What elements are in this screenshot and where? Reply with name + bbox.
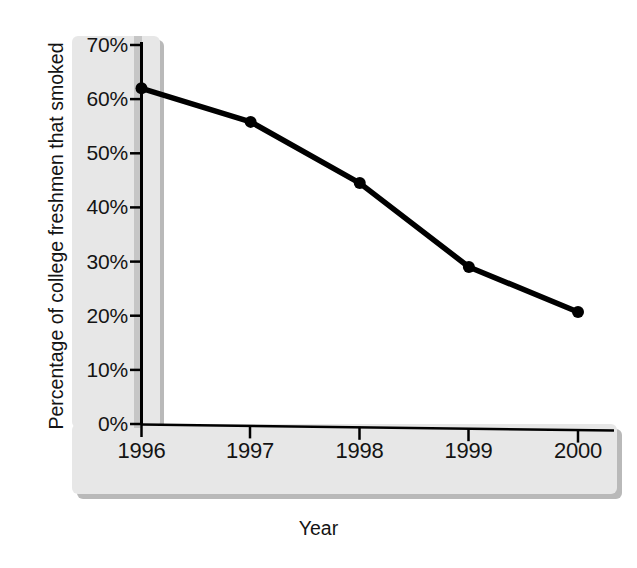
data-point-1999	[463, 261, 475, 273]
data-series-line	[142, 88, 579, 312]
x-tick-label-1996: 1996	[87, 440, 197, 462]
x-tick-label-1999: 1999	[414, 440, 524, 462]
x-tick-label-1997: 1997	[195, 440, 305, 462]
caption-remnant	[28, 560, 248, 568]
plot-area	[0, 0, 637, 568]
chart-figure: 70% 60% 50% 40% 30% 20% 10% 0% 1996 1997…	[0, 0, 637, 568]
x-axis-line	[142, 425, 615, 431]
data-point-1997	[245, 116, 257, 128]
y-axis-title: Percentage of college freshmen that smok…	[46, 26, 66, 446]
x-axis-title: Year	[0, 518, 637, 538]
data-point-1998	[354, 177, 366, 189]
x-tick-label-2000: 2000	[523, 440, 633, 462]
data-point-2000	[572, 306, 584, 318]
data-point-1996	[136, 82, 148, 94]
x-tick-label-1998: 1998	[305, 440, 415, 462]
data-point-markers	[136, 82, 585, 318]
